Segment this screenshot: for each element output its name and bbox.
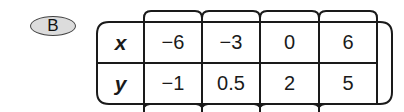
cell-x-3: 0	[260, 22, 319, 63]
cell-y-4: 5	[319, 63, 377, 104]
cell-x-4: 6	[319, 22, 377, 63]
header-y: y	[97, 63, 144, 104]
header-x: x	[97, 22, 144, 63]
cell-y-1: −1	[144, 63, 202, 104]
cell-x-2: −3	[202, 22, 260, 63]
cell-y-3: 2	[260, 63, 319, 104]
cell-y-2: 0.5	[202, 63, 260, 104]
cell-x-1: −6	[144, 22, 202, 63]
